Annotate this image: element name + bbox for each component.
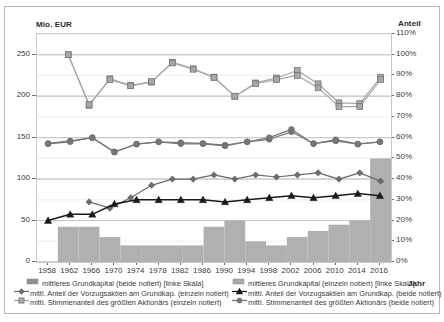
plot-area (36, 33, 392, 263)
x-tick-label: 2016 (364, 266, 394, 275)
right-tick-label: 30% (396, 194, 426, 203)
chart-screenshot: Mio. EUR Anteil Jahr 250200150100500 110… (0, 0, 444, 322)
right-tick-label: 80% (396, 90, 426, 99)
legend-row-1: mittleres Grundkapital (beide notiert) [… (8, 278, 436, 288)
right-axis-title: Anteil (398, 19, 421, 28)
left-tick-label: 50 (4, 215, 30, 224)
right-tick-label: 90% (396, 69, 426, 78)
chart-canvas (37, 34, 391, 262)
legend-row-3: mittl. Stimmenanteil des größten Aktionä… (8, 297, 436, 307)
right-tick-label: 60% (396, 132, 426, 141)
left-tick-label: 100 (4, 173, 30, 182)
right-tick-label: 40% (396, 173, 426, 182)
legend-item-5: mittl. Stimmenanteil des größten Aktionä… (232, 297, 434, 308)
left-tick-label: 250 (4, 49, 30, 58)
right-tick-label: 10% (396, 235, 426, 244)
left-tick-label: 0 (4, 256, 30, 265)
right-tick-label: 110% (396, 28, 426, 37)
right-tick-label: 20% (396, 215, 426, 224)
right-tick-label: 50% (396, 152, 426, 161)
legend-swatch-line-square (14, 296, 29, 307)
legend-row-2: mittl. Anteil der Vorzugsaktien am Grund… (8, 288, 436, 298)
legend-label-5: mittl. Stimmenanteil des größten Aktionä… (248, 298, 434, 307)
left-tick-label: 150 (4, 132, 30, 141)
right-tick-label: 100% (396, 49, 426, 58)
legend-swatch-line-circle (232, 296, 247, 307)
legend-item-4: mittl. Stimmenanteil des größten Aktionä… (14, 297, 221, 308)
right-tick-label: 0% (396, 256, 426, 265)
legend-label-4: mittl. Stimmenanteil des größten Aktionä… (30, 298, 221, 307)
left-axis-title: Mio. EUR (36, 20, 72, 29)
left-tick-label: 200 (4, 90, 30, 99)
right-tick-label: 70% (396, 111, 426, 120)
chart-legend: mittleres Grundkapital (beide notiert) [… (8, 278, 436, 307)
